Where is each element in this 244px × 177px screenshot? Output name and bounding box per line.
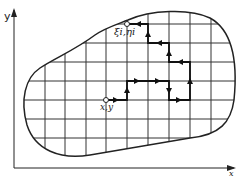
arrow-up-icon xyxy=(166,50,172,56)
x-axis-label: x xyxy=(229,170,234,177)
arrow-left-icon xyxy=(177,59,183,65)
arrow-right-icon xyxy=(155,78,161,84)
y-axis-label: y xyxy=(4,11,11,22)
start-point-label: x,y xyxy=(100,103,113,112)
arrow-right-icon xyxy=(113,97,119,103)
arrow-up-icon xyxy=(145,31,151,37)
arrow-left-icon xyxy=(135,21,141,27)
arrow-left-icon xyxy=(156,40,162,46)
arrow-right-icon xyxy=(134,78,140,84)
arrow-up-icon xyxy=(124,87,130,93)
arrow-down-icon xyxy=(166,88,172,94)
random-walk-diagram: y x x,y ξi,ηi xyxy=(0,0,244,177)
y-axis-arrow-icon xyxy=(11,8,17,17)
boundary-point-label: ξi,ηi xyxy=(114,27,135,37)
arrow-right-icon xyxy=(176,97,182,103)
